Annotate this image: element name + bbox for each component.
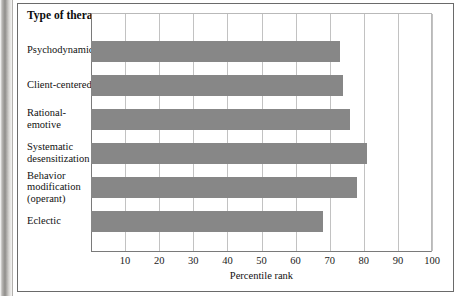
category-label: Psychodynamic <box>27 44 93 56</box>
x-tick-label: 20 <box>144 255 174 266</box>
x-tick-label: 60 <box>281 255 311 266</box>
x-tick-label: 10 <box>110 255 140 266</box>
gridline-90 <box>398 14 399 251</box>
bar <box>91 177 357 198</box>
x-tick-label: 40 <box>212 255 242 266</box>
category-label: Eclectic <box>27 215 93 227</box>
bar <box>91 75 343 96</box>
x-tick-label: 30 <box>178 255 208 266</box>
x-tick-label: 80 <box>349 255 379 266</box>
bar <box>91 109 350 130</box>
x-tick-label: 50 <box>247 255 277 266</box>
category-label: Behavior modification (operant) <box>27 170 93 205</box>
x-axis-title: Percentile rank <box>91 270 432 281</box>
bar-chart: Type of therapy PsychodynamicClient-cent… <box>0 0 460 296</box>
x-tick-label: 100 <box>417 255 447 266</box>
category-label: Rational- emotive <box>27 107 93 130</box>
bar <box>91 41 340 62</box>
bar <box>91 211 323 232</box>
gridline-100 <box>432 14 433 251</box>
category-label: Client-centered <box>27 79 93 91</box>
bar <box>91 143 367 164</box>
gridline-80 <box>364 14 365 251</box>
category-label: Systematic desensitization <box>27 141 93 164</box>
x-tick-label: 70 <box>315 255 345 266</box>
x-tick-label: 90 <box>383 255 413 266</box>
